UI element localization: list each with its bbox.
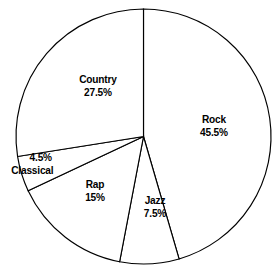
slice-label-rap: Rap 15% (66, 178, 123, 203)
slice-label-country-value: 27.5% (63, 86, 133, 99)
slice-label-jazz: Jazz 7.5% (126, 194, 183, 219)
slice-label-classical: 4.5% Classical (9, 151, 86, 176)
slice-label-classical-value: 4.5% (9, 151, 86, 164)
slice-label-rock-name: Rock (181, 113, 247, 126)
slice-label-country-name: Country (63, 73, 133, 86)
slice-label-rap-name: Rap (66, 178, 123, 191)
slice-label-rap-value: 15% (66, 191, 123, 204)
slice-label-jazz-name: Jazz (126, 194, 183, 207)
slice-label-rock-value: 45.5% (181, 126, 247, 139)
pie-chart-figure: Rock 45.5% Country 27.5% Rap 15% Jazz 7.… (0, 0, 279, 268)
slice-label-jazz-value: 7.5% (126, 207, 183, 220)
slice-label-rock: Rock 45.5% (181, 113, 247, 138)
slice-label-classical-name: Classical (9, 164, 86, 177)
slice-label-country: Country 27.5% (63, 73, 133, 98)
